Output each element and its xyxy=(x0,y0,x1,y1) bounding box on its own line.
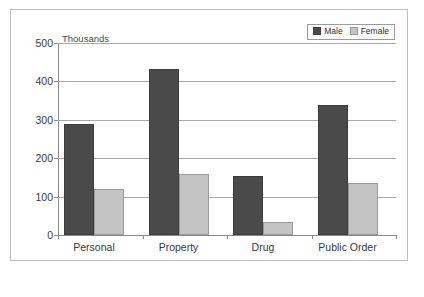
x-axis-tick-mark xyxy=(143,235,144,239)
y-axis-tick-label: 0 xyxy=(47,230,53,241)
legend-entry-male[interactable]: Male xyxy=(313,27,342,36)
x-axis-tick-mark xyxy=(227,235,228,239)
bar-female-personal[interactable] xyxy=(94,189,124,235)
bar-male-public-order[interactable] xyxy=(318,105,348,235)
y-axis-tick-mark xyxy=(54,120,58,121)
legend-label-female: Female xyxy=(361,27,389,36)
plot-area: 0100200300400500 PersonalPropertyDrugPub… xyxy=(58,43,396,235)
chart-frame: Thousands Male Female 0100200300400500 P… xyxy=(10,9,408,261)
x-axis-tick-mark xyxy=(58,235,59,239)
y-axis-tick-label: 200 xyxy=(35,153,53,164)
bar-female-property[interactable] xyxy=(179,174,209,235)
x-axis-label-drug: Drug xyxy=(252,242,275,253)
male-swatch-icon xyxy=(313,27,321,35)
x-axis-label-public-order: Public Order xyxy=(318,242,376,253)
bar-male-drug[interactable] xyxy=(233,176,263,235)
y-axis-tick-mark xyxy=(54,81,58,82)
y-axis-tick-label: 300 xyxy=(35,115,53,126)
x-axis-tick-mark xyxy=(396,235,397,239)
female-swatch-icon xyxy=(350,27,358,35)
chart-legend: Male Female xyxy=(307,24,395,40)
bar-female-public-order[interactable] xyxy=(348,183,378,235)
y-axis-tick-mark xyxy=(54,158,58,159)
bar-male-property[interactable] xyxy=(149,69,179,235)
legend-entry-female[interactable]: Female xyxy=(350,27,389,36)
gridline xyxy=(58,43,396,44)
bar-male-personal[interactable] xyxy=(64,124,94,235)
y-axis-tick-mark xyxy=(54,43,58,44)
x-axis-label-property: Property xyxy=(159,242,199,253)
gridline xyxy=(58,81,396,82)
legend-label-male: Male xyxy=(324,27,342,36)
x-axis-label-personal: Personal xyxy=(73,242,114,253)
x-axis-tick-mark xyxy=(312,235,313,239)
y-axis-tick-label: 400 xyxy=(35,76,53,87)
y-axis-tick-label: 500 xyxy=(35,38,53,49)
y-axis-tick-mark xyxy=(54,197,58,198)
bar-female-drug[interactable] xyxy=(263,222,293,235)
y-axis-tick-label: 100 xyxy=(35,191,53,202)
